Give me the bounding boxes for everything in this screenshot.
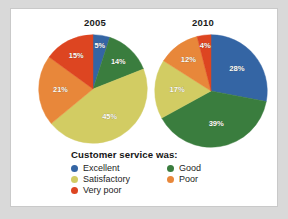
pie-slice-label-2010-good: 39% — [209, 119, 224, 128]
legend-item-very-poor[interactable]: Very poor — [71, 186, 167, 195]
legend-swatch-good — [167, 165, 174, 172]
pie-slice-label-2010-satisfactory: 17% — [170, 85, 185, 94]
legend-item-good[interactable]: Good — [167, 164, 247, 173]
pie-slice-label-2005-good: 14% — [111, 57, 126, 66]
legend-swatch-very-poor — [71, 187, 78, 194]
legend-item-satisfactory[interactable]: Satisfactory — [71, 175, 167, 184]
legend-swatch-satisfactory — [71, 176, 78, 183]
legend-label-satisfactory: Satisfactory — [83, 175, 130, 184]
pie-slice-label-2010-poor: 12% — [181, 55, 196, 64]
pie-svg-2005: 5%14%45%21%15% — [37, 33, 149, 145]
pie-slice-label-2010-very-poor: 4% — [200, 41, 211, 50]
pie-slice-label-2005-excellent: 5% — [94, 41, 105, 50]
pie-slice-label-2005-poor: 21% — [53, 85, 68, 94]
pie-slice-label-2005-satisfactory: 45% — [102, 112, 117, 121]
pie-title-2010: 2010 — [151, 17, 255, 28]
legend-swatch-excellent — [71, 165, 78, 172]
legend-label-good: Good — [179, 164, 201, 173]
legend-label-excellent: Excellent — [83, 164, 120, 173]
pie-chart-2005: 5%14%45%21%15% — [37, 33, 149, 145]
pie-title-2005: 2005 — [43, 17, 147, 28]
legend-swatch-poor — [167, 176, 174, 183]
legend-label-very-poor: Very poor — [83, 186, 122, 195]
legend-label-poor: Poor — [179, 175, 198, 184]
pie-slice-label-2010-excellent: 28% — [229, 64, 244, 73]
legend-title: Customer service was: — [71, 149, 261, 160]
chart-figure: 2005 2010 5%14%45%21%15% 28%39%17%12%4% … — [10, 8, 278, 207]
legend-items: ExcellentGoodSatisfactoryPoorVery poor — [71, 164, 261, 195]
legend: Customer service was: ExcellentGoodSatis… — [71, 149, 261, 195]
pie-slice-label-2005-very-poor: 15% — [69, 51, 84, 60]
legend-item-poor[interactable]: Poor — [167, 175, 247, 184]
pie-svg-2010: 28%39%17%12%4% — [153, 33, 269, 149]
pie-chart-2010: 28%39%17%12%4% — [153, 33, 269, 149]
legend-item-excellent[interactable]: Excellent — [71, 164, 167, 173]
